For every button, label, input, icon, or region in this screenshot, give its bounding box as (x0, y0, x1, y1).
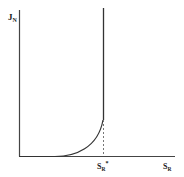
threshold-label-sup: * (105, 160, 108, 166)
y-axis-label: JN (8, 12, 18, 23)
threshold-label: SR* (97, 160, 108, 172)
threshold-label-sub: R (101, 166, 106, 172)
diagram-canvas: JN SR SR* (0, 0, 184, 177)
x-axis-label: SR (163, 162, 172, 172)
y-label-sub: N (13, 17, 18, 23)
x-label-sub: R (167, 166, 172, 172)
jn-curve (19, 120, 103, 157)
